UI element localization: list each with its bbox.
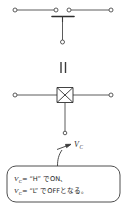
arrow-head [66, 144, 72, 147]
callout-tail [58, 150, 63, 166]
callout-line-off: V C = “L” でOFFとなる。 [14, 187, 88, 196]
callout-line-on-text: = “H” でON、 [22, 175, 67, 183]
terminal-left-bottom [13, 93, 17, 97]
control-voltage-annotation: V C [57, 140, 84, 150]
terminal-left-inner-top [54, 8, 58, 12]
callout-group: V C = “H” でON、 V C = “L” でOFFとなる。 [7, 150, 120, 202]
terminal-control-bottom [63, 131, 67, 135]
figure-root: V C V C = “H” でON、 V C = “L” でOFFとなる。 [0, 0, 129, 210]
callout-box [7, 166, 120, 202]
terminal-left-outer-top [13, 8, 17, 12]
top-circuit-group [13, 8, 113, 44]
callout-line-on: V C = “H” でON、 [14, 175, 67, 184]
terminal-control-top [61, 40, 65, 44]
terminal-right-outer-top [109, 8, 113, 12]
circuit-diagram-svg: V C V C = “H” でON、 V C = “L” でOFFとなる。 [0, 0, 129, 210]
callout-line-off-text: = “L” でOFFとなる。 [22, 187, 88, 195]
terminal-right-bottom [109, 93, 113, 97]
terminal-right-inner-top [67, 8, 71, 12]
equivalence-group [61, 62, 66, 73]
control-voltage-subscript: C [80, 144, 84, 150]
bottom-circuit-group [13, 88, 113, 135]
bowtie-symbol [57, 88, 73, 103]
